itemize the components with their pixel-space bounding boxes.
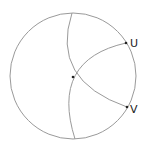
geodesic-arc-top-to-v [67, 13, 127, 107]
point-v [126, 106, 129, 109]
geodesic-arc-u-to-bottom [69, 43, 126, 139]
point-u [125, 42, 128, 45]
diagram-canvas: U V [0, 0, 144, 145]
label-v: V [130, 103, 138, 116]
label-u: U [130, 37, 138, 50]
center-point [72, 76, 75, 79]
